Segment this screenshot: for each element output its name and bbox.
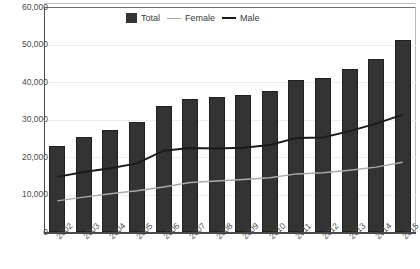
legend-label-total: Total xyxy=(141,13,160,23)
y-axis-tick-label: 30,000 xyxy=(8,115,48,124)
legend-line-male-icon xyxy=(222,17,236,19)
y-axis-tick-label: 20,000 xyxy=(8,153,48,162)
x-axis-labels: 2002200320042005200620072008200920102011… xyxy=(44,234,416,269)
legend-label-female: Female xyxy=(185,13,215,23)
y-axis-tick-label: 60,000 xyxy=(8,3,48,12)
line-series-overlay xyxy=(44,7,416,232)
y-axis-tick-label: 40,000 xyxy=(8,78,48,87)
title-divider xyxy=(44,3,416,4)
legend-label-male: Male xyxy=(240,13,260,23)
chart-legend: Total Female Male xyxy=(126,13,260,23)
y-axis-tick-label: 50,000 xyxy=(8,40,48,49)
y-axis-tick-label: 0 xyxy=(8,228,48,237)
legend-item-male[interactable]: Male xyxy=(222,13,260,23)
legend-line-female-icon xyxy=(167,18,181,19)
line-male xyxy=(57,115,402,177)
legend-swatch-total-icon xyxy=(126,13,137,23)
chart-container: 60,00050,00040,00030,00020,00010,0000 20… xyxy=(0,0,420,269)
legend-item-total[interactable]: Total xyxy=(126,13,160,23)
y-axis-tick-label: 10,000 xyxy=(8,190,48,199)
legend-item-female[interactable]: Female xyxy=(167,13,215,23)
